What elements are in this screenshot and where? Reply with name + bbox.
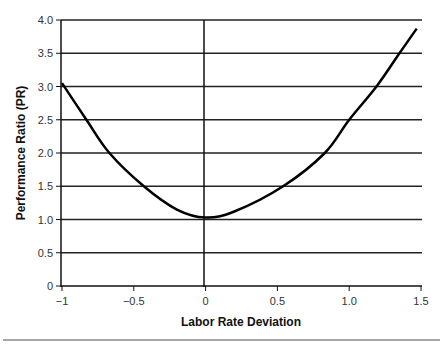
x-tick-label: −0.5 (123, 295, 145, 307)
y-tick-label: 4.0 (38, 14, 53, 26)
x-tick-label: 0 (203, 295, 209, 307)
pr-curve (62, 29, 417, 218)
y-tick-label: 0.5 (38, 247, 53, 259)
y-tick-label: 1.0 (38, 214, 53, 226)
y-tick-label: 3.5 (38, 47, 53, 59)
y-tick-label: 3.0 (38, 81, 53, 93)
y-axis-title: Performance Ratio (PR) (14, 86, 28, 221)
horizontal-gridlines (61, 20, 422, 253)
x-axis-ticks: −1−0.500.51.01.5 (56, 286, 429, 307)
y-tick-label: 1.5 (38, 180, 53, 192)
x-tick-label: 0.5 (270, 295, 285, 307)
x-tick-label: 1.0 (342, 295, 357, 307)
x-axis-title: Labor Rate Deviation (181, 315, 301, 329)
x-tick-label: −1 (56, 295, 69, 307)
x-tick-label: 1.5 (413, 295, 428, 307)
y-tick-label: 2.5 (38, 114, 53, 126)
y-tick-label: 0 (47, 280, 53, 292)
y-axis-ticks: 00.51.01.52.02.53.03.54.0 (38, 14, 61, 292)
y-tick-label: 2.0 (38, 147, 53, 159)
performance-ratio-chart: 00.51.01.52.02.53.03.54.0 −1−0.500.51.01… (0, 0, 443, 344)
